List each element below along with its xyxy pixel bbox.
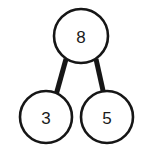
bond-link-whole-to-right-part bbox=[96, 59, 104, 95]
node-value-whole: 8 bbox=[76, 28, 85, 47]
number-bond-diagram: 8 3 5 bbox=[0, 0, 149, 150]
number-bond-canvas: 8 3 5 bbox=[0, 0, 149, 150]
node-value-part-right: 5 bbox=[102, 109, 111, 128]
node-value-part-left: 3 bbox=[41, 109, 50, 128]
bond-link-whole-to-left-part bbox=[56, 59, 66, 95]
